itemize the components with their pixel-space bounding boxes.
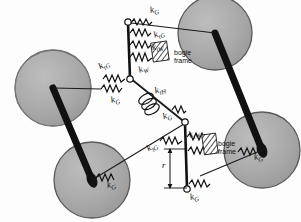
spring-kg-left	[103, 75, 125, 82]
spring-kg-lower-top	[172, 106, 186, 113]
bogie-frame-upper-line2: frame	[174, 57, 192, 65]
spring-kw-top	[130, 53, 152, 61]
joint-upper-bar-bottom	[127, 76, 133, 82]
bar-lower	[185, 123, 187, 188]
joint-lower-bar-top	[182, 119, 188, 125]
bar-upper	[128, 23, 130, 78]
schematic-svg	[0, 0, 301, 222]
bogie-frame-label-lower: bogie frame	[218, 140, 236, 155]
spring-ktg-left	[101, 85, 122, 92]
bogie-frame-lower-line1: bogie	[218, 140, 236, 148]
spring-kg-lower-bottom	[189, 180, 210, 187]
figure-canvas: kG ktG ktW kW ktG kG ktH kG ktW ktG kG k…	[0, 0, 301, 222]
joint-upper-bar-top	[125, 19, 131, 25]
spring-ktg-lower	[160, 137, 182, 144]
bogie-frame-lower-line2: frame	[218, 148, 236, 156]
label-r-dimension: r	[162, 161, 166, 170]
bogie-frame-block-lower	[202, 133, 219, 155]
bogie-frame-upper-line1: bogie	[174, 49, 192, 57]
spring-ktw-top	[130, 41, 151, 48]
bogie-frame-label-upper: bogie frame	[174, 49, 192, 64]
spring-ktg-top	[130, 29, 151, 36]
label-ktw-top: ktW	[151, 41, 164, 54]
